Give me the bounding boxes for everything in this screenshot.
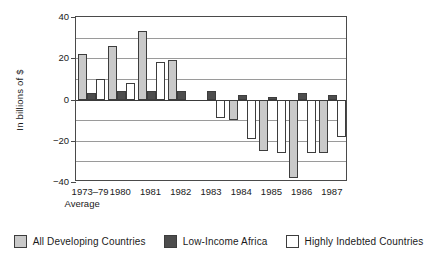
- y-tick-label: −20: [39, 134, 69, 145]
- y-tick-label: 0: [39, 93, 69, 104]
- bar: [138, 31, 147, 99]
- bar: [96, 79, 105, 100]
- x-tick-label: 1981: [140, 186, 161, 197]
- x-tick-label: 1986: [291, 186, 312, 197]
- legend-swatch-low-income-africa: [164, 235, 177, 248]
- bar-group: [197, 17, 227, 180]
- bar: [229, 100, 238, 121]
- x-tick-label: 1983: [200, 186, 221, 197]
- x-tick-label: 1984: [231, 186, 252, 197]
- bar: [307, 100, 316, 154]
- bar: [277, 100, 286, 154]
- bar: [177, 91, 186, 99]
- bar: [319, 100, 328, 154]
- bar: [289, 100, 298, 178]
- bar: [156, 62, 165, 99]
- bar: [147, 91, 156, 99]
- plot-area: [75, 16, 347, 181]
- y-axis-title: In billions of $: [14, 0, 25, 40]
- bar: [238, 95, 247, 99]
- bar-group: [167, 17, 197, 180]
- x-tick-label: 1980: [110, 186, 131, 197]
- bar-series-container: [76, 17, 346, 180]
- legend-item: Low-Income Africa: [164, 235, 268, 248]
- legend-label: Low-Income Africa: [183, 236, 268, 247]
- bar-group: [136, 17, 166, 180]
- bar-group: [257, 17, 287, 180]
- bar: [78, 54, 87, 99]
- y-tick-mark: [71, 100, 76, 101]
- legend-item: Highly Indebted Countries: [286, 235, 424, 248]
- y-tick-mark: [71, 17, 76, 18]
- x-tick-sublabel: Average: [65, 198, 100, 209]
- legend-swatch-highly-indebted: [286, 235, 299, 248]
- legend-item: All Developing Countries: [14, 235, 146, 248]
- y-tick-label: 40: [39, 11, 69, 22]
- chart-legend: All Developing CountriesLow-Income Afric…: [0, 235, 437, 248]
- y-tick-label: −40: [39, 176, 69, 187]
- bar-group: [76, 17, 106, 180]
- x-tick-label: 1987: [321, 186, 342, 197]
- y-tick-mark: [71, 141, 76, 142]
- bar-group: [288, 17, 318, 180]
- y-tick-label: 20: [39, 52, 69, 63]
- bar: [108, 46, 117, 100]
- legend-label: Highly Indebted Countries: [305, 236, 424, 247]
- bar-group: [106, 17, 136, 180]
- bar-chart-figure: In billions of $ 40200−20−40 1973–79Aver…: [0, 0, 437, 277]
- bar: [298, 93, 307, 99]
- bar: [168, 60, 177, 99]
- bar: [259, 100, 268, 152]
- bar: [207, 91, 216, 99]
- legend-swatch-all-developing: [14, 235, 27, 248]
- x-tick-label: 1985: [261, 186, 282, 197]
- bar: [87, 93, 96, 99]
- bar: [328, 95, 337, 99]
- bar: [216, 100, 225, 119]
- legend-label: All Developing Countries: [33, 236, 146, 247]
- x-tick-label: 1973–79: [72, 186, 109, 197]
- bar: [247, 100, 256, 139]
- bar: [126, 83, 135, 100]
- bar: [268, 97, 277, 99]
- bar: [337, 100, 346, 137]
- bar-group: [227, 17, 257, 180]
- bar-group: [318, 17, 348, 180]
- y-tick-mark: [71, 182, 76, 183]
- x-tick-label: 1982: [170, 186, 191, 197]
- bar: [117, 91, 126, 99]
- y-tick-mark: [71, 58, 76, 59]
